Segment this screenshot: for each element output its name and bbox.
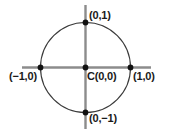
unit-circle-diagram: (0,1) (1,0) (0,−1) (−1,0) C(0,0) xyxy=(0,0,171,137)
point-label-bottom: (0,−1) xyxy=(89,113,117,124)
point-marker-bottom xyxy=(83,110,89,116)
point-marker-top xyxy=(83,20,89,26)
point-label-top: (0,1) xyxy=(89,10,111,21)
point-label-left: (−1,0) xyxy=(9,71,37,82)
point-label-right: (1,0) xyxy=(133,71,155,82)
point-marker-left xyxy=(38,65,44,71)
point-label-center: C(0,0) xyxy=(87,71,116,82)
diagram-canvas xyxy=(0,0,171,137)
